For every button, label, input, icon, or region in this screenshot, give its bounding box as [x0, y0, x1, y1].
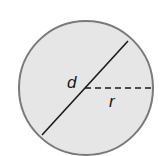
- circle-diagram-svg: d r: [0, 0, 165, 156]
- circle-diagram: d r: [0, 0, 165, 156]
- diameter-label: d: [67, 73, 77, 92]
